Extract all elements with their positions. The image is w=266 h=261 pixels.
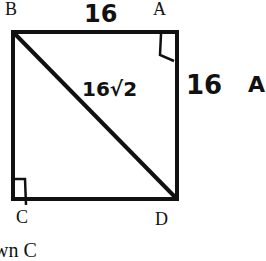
right-angle-mark-a: [160, 34, 174, 61]
vertex-label-d: D: [155, 210, 168, 228]
diagonal-bd: [14, 33, 176, 198]
vertex-label-b: B: [5, 0, 17, 18]
right-partial-label: A: [248, 74, 265, 96]
vertex-label-c: C: [16, 208, 28, 226]
diagonal-length-label: 16√2: [82, 79, 137, 99]
vertex-label-a: A: [153, 0, 166, 18]
bottom-caption-partial: wn C: [0, 240, 37, 260]
top-side-length-label: 16: [84, 2, 117, 26]
right-side-length-label: 16: [186, 72, 222, 98]
